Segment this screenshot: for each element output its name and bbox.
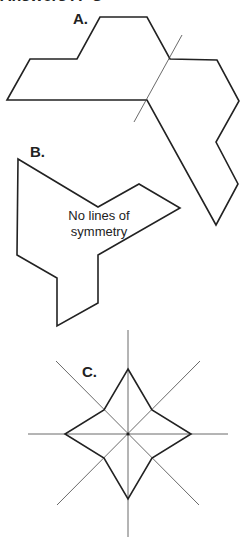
figure-b-label: B.: [30, 143, 45, 160]
figure-a-label: A.: [73, 10, 88, 27]
figure-b: B. No lines of symmetry: [17, 143, 180, 326]
figure-c-center-point: [126, 432, 129, 435]
figure-c-label: C.: [82, 363, 97, 380]
figure-b-shape: [17, 159, 180, 326]
symmetry-diagram: A. B. No lines of symmetry C.: [0, 0, 243, 543]
figure-b-note-line1: No lines of: [68, 208, 130, 223]
figure-c: C.: [28, 330, 228, 537]
figure-b-note-line2: symmetry: [71, 224, 128, 239]
figure-a-symmetry-line: [134, 35, 182, 122]
